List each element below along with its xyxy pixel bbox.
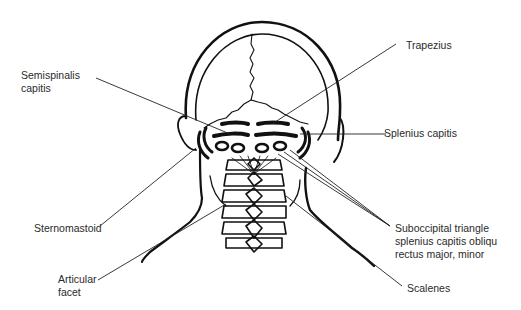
right-inner-neck (290, 180, 300, 206)
cervical-spine (222, 158, 286, 252)
lambdoid-suture (204, 100, 308, 128)
label-semispinalis-line2: capitis (21, 82, 80, 95)
label-suboccipital-line1: Suboccipital triangle (395, 222, 497, 235)
leader-trapezius (272, 44, 396, 124)
leader-sternomastoid (100, 148, 196, 226)
sagittal-suture (250, 34, 254, 100)
label-articular-facet: Articular facet (58, 273, 97, 299)
left-ear (178, 116, 196, 150)
leader-suboccipital-1 (278, 154, 390, 226)
leader-semispinalis (96, 78, 230, 134)
label-suboccipital-line2: splenius capitis obliqu (395, 235, 497, 248)
label-semispinalis-capitis: Semispinalis capitis (21, 69, 80, 95)
label-suboccipital-triangle: Suboccipital triangle splenius capitis o… (395, 222, 497, 261)
label-splenius-capitis: Splenius capitis (384, 127, 457, 140)
anatomy-diagram: Trapezius Semispinalis capitis Splenius … (0, 0, 521, 310)
leader-scalenes (286, 196, 402, 286)
label-articular-line2: facet (58, 286, 97, 299)
label-articular-line1: Articular (58, 273, 97, 286)
leader-suboccipital-2 (284, 152, 390, 226)
label-sternomastoid: Sternomastoid (34, 222, 102, 235)
left-neck-outline (142, 150, 202, 262)
label-trapezius: Trapezius (406, 39, 452, 52)
leader-articular (98, 204, 226, 280)
right-neck-outline (305, 168, 374, 266)
label-semispinalis-line1: Semispinalis (21, 69, 80, 82)
label-suboccipital-line3: rectus major, minor (395, 248, 497, 261)
label-scalenes: Scalenes (407, 282, 450, 295)
